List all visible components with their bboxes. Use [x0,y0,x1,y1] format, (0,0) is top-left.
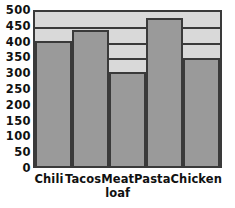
y-axis-tick-label: 100 [0,132,31,144]
x-axis-tick-label: Tacos [65,172,101,200]
y-axis-tick-label: 300 [0,68,31,80]
y-axis-tick-label: 500 [0,5,31,17]
bar-chart: 500 450 400 350 300 250 200 150 100 50 0… [0,0,235,208]
y-axis-tick-label: 450 [0,21,31,33]
x-axis-tick-label-line: Chili [33,172,65,186]
bar [183,58,220,166]
y-axis-tick-label: 350 [0,53,31,65]
y-axis-tick-label: 150 [0,116,31,128]
bars-layer [35,12,220,166]
bar [72,30,109,166]
x-axis-tick-label: Meatloaf [101,172,134,200]
bar [109,72,146,166]
x-axis-tick-label: Chili [33,172,65,200]
y-axis: 500 450 400 350 300 250 200 150 100 50 0 [0,0,31,208]
y-axis-tick-label: 250 [0,84,31,96]
y-axis-tick-label: 400 [0,37,31,49]
x-axis-tick-label: Chicken [171,172,222,200]
x-axis-tick-label: Pasta [134,172,170,200]
x-axis-tick-label-line: Tacos [65,172,101,186]
y-axis-tick-label: 50 [0,147,31,159]
bar [146,18,183,166]
x-axis-tick-label-line: Meat [101,172,134,186]
x-axis-tick-label-line: Chicken [171,172,222,186]
plot-area [33,10,222,168]
x-axis-tick-label-line: loaf [101,186,134,200]
y-axis-tick-label: 0 [0,163,31,175]
bar [35,41,72,166]
y-axis-tick-label: 200 [0,100,31,112]
x-axis: ChiliTacosMeatloafPastaChicken [33,172,222,200]
x-axis-tick-label-line: Pasta [134,172,170,186]
